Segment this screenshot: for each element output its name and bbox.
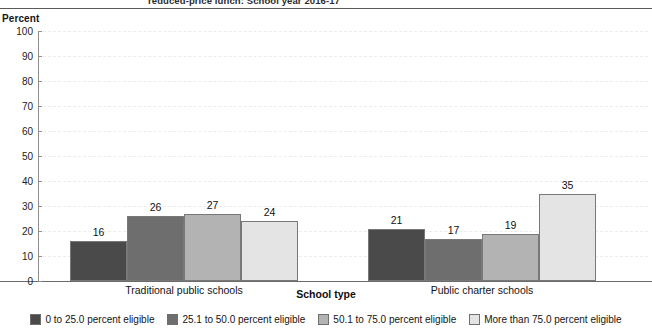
bar-value-label: 35 xyxy=(562,179,574,191)
bar xyxy=(368,229,425,282)
legend-item[interactable]: 0 to 25.0 percent eligible xyxy=(30,314,154,325)
bar-value-label: 19 xyxy=(505,219,517,231)
y-axis-tick-label: 40 xyxy=(22,176,33,187)
y-axis-tick-label: 100 xyxy=(16,26,33,37)
y-axis-tick-mark xyxy=(38,56,42,57)
legend-item-label: More than 75.0 percent eligible xyxy=(484,314,621,325)
legend-swatch-icon xyxy=(469,314,480,325)
y-axis-tick-mark xyxy=(38,206,42,207)
legend-item-label: 25.1 to 50.0 percent eligible xyxy=(182,314,305,325)
bar-value-label: 27 xyxy=(207,199,219,211)
bar xyxy=(127,216,184,281)
legend-item[interactable]: More than 75.0 percent eligible xyxy=(469,314,621,325)
y-axis-tick-mark xyxy=(38,31,42,32)
y-axis-tick-label: 0 xyxy=(27,276,33,287)
y-axis-tick-mark xyxy=(38,81,42,82)
legend-swatch-icon xyxy=(318,314,329,325)
y-axis-tick-mark xyxy=(38,106,42,107)
y-axis-tick-mark xyxy=(38,281,42,282)
y-axis-tick-label: 60 xyxy=(22,126,33,137)
y-axis-tick-label: 70 xyxy=(22,101,33,112)
gridline xyxy=(38,56,648,58)
chart-title: reduced-price lunch: School year 2016-17 xyxy=(148,0,340,6)
gridline xyxy=(38,81,648,83)
chart-plot-area: 010203040506070809010016262724Traditiona… xyxy=(38,31,648,281)
y-axis-title: Percent xyxy=(2,13,39,24)
y-axis-tick-label: 90 xyxy=(22,51,33,62)
legend-item-label: 0 to 25.0 percent eligible xyxy=(45,314,154,325)
bar xyxy=(425,239,482,282)
bar-value-label: 16 xyxy=(93,226,105,238)
y-axis-tick-label: 10 xyxy=(22,251,33,262)
gridline xyxy=(38,31,648,33)
bar xyxy=(241,221,298,281)
bar-value-label: 21 xyxy=(391,214,403,226)
bar-value-label: 17 xyxy=(448,224,460,236)
y-axis-tick-label: 30 xyxy=(22,201,33,212)
y-axis-tick-mark xyxy=(38,256,42,257)
y-axis-tick-label: 20 xyxy=(22,226,33,237)
bar xyxy=(482,234,539,282)
y-axis-tick-mark xyxy=(38,156,42,157)
legend-item[interactable]: 25.1 to 50.0 percent eligible xyxy=(167,314,305,325)
y-axis-tick-label: 80 xyxy=(22,76,33,87)
legend-item-label: 50.1 to 75.0 percent eligible xyxy=(333,314,456,325)
bar xyxy=(539,194,596,282)
y-axis-tick-mark xyxy=(38,181,42,182)
x-axis-title: School type xyxy=(0,288,652,300)
bar-value-label: 24 xyxy=(264,206,276,218)
gridline xyxy=(38,156,648,158)
chart-legend: 0 to 25.0 percent eligible25.1 to 50.0 p… xyxy=(0,314,652,325)
legend-swatch-icon xyxy=(30,314,41,325)
x-axis-line xyxy=(0,281,652,282)
y-axis-tick-mark xyxy=(38,131,42,132)
y-axis-tick-mark xyxy=(38,231,42,232)
bar-value-label: 26 xyxy=(150,201,162,213)
bar xyxy=(70,241,127,281)
title-divider xyxy=(0,8,652,9)
gridline xyxy=(38,106,648,108)
legend-swatch-icon xyxy=(167,314,178,325)
bar xyxy=(184,214,241,282)
y-axis-tick-label: 50 xyxy=(22,151,33,162)
legend-item[interactable]: 50.1 to 75.0 percent eligible xyxy=(318,314,456,325)
gridline xyxy=(38,181,648,183)
gridline xyxy=(38,131,648,133)
